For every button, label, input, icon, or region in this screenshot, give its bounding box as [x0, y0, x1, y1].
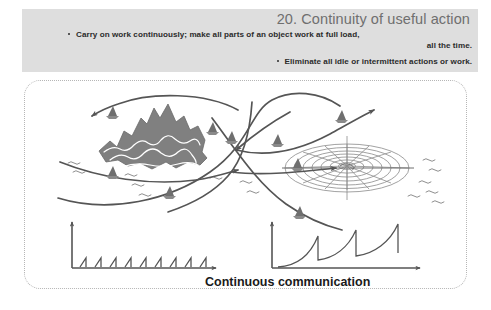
page-title: 20. Continuity of useful action — [277, 10, 470, 28]
slide-canvas: 20. Continuity of useful action Carry on… — [0, 0, 491, 310]
figure-caption: Continuous communication — [205, 275, 370, 289]
bullet-1-line-2: all the time. — [68, 41, 472, 52]
bullet-1-text: Carry on work continuously; make all par… — [76, 30, 359, 39]
bullet-dot-icon — [277, 60, 279, 62]
bullet-item-1: Carry on work continuously; make all par… — [68, 30, 472, 51]
slide-header-band: 20. Continuity of useful action Carry on… — [22, 9, 478, 72]
bullet-1-line-1: Carry on work continuously; make all par… — [68, 30, 472, 41]
bullet-dot-icon — [68, 33, 70, 35]
bullet-2-text: Eliminate all idle or intermittent actio… — [285, 57, 472, 66]
bullet-item-2: Eliminate all idle or intermittent actio… — [68, 57, 472, 68]
illustration-panel — [24, 80, 467, 289]
